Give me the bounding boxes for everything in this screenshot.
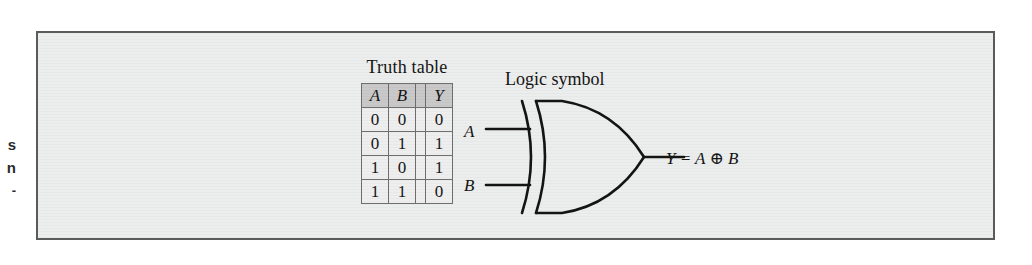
- margin-text-fragment: s: [2, 136, 16, 153]
- truth-table-spacer-cell: [416, 156, 426, 180]
- gate-upper-curve: [536, 101, 644, 157]
- truth-table-header-row: A B Y: [362, 84, 453, 108]
- xor-outer-arc: [522, 101, 531, 213]
- truth-table-spacer-cell: [416, 132, 426, 156]
- output-expression: Y = A ⊕ B: [666, 148, 738, 169]
- logic-symbol-caption: Logic symbol: [505, 69, 605, 90]
- cell-b: 0: [389, 156, 416, 180]
- truth-table-spacer-cell: [416, 84, 426, 108]
- truth-table-spacer-cell: [416, 108, 426, 132]
- cell-a: 0: [362, 132, 389, 156]
- cell-y: 1: [426, 132, 453, 156]
- cell-b: 0: [389, 108, 416, 132]
- table-row: 1 1 0: [362, 180, 453, 204]
- cell-b: 1: [389, 132, 416, 156]
- cell-a: 1: [362, 156, 389, 180]
- cell-a: 1: [362, 180, 389, 204]
- table-row: 0 0 0: [362, 108, 453, 132]
- margin-text-fragment: -: [2, 183, 16, 198]
- truth-table: A B Y 0 0 0 0 1 1: [361, 83, 453, 204]
- gate-lower-curve: [536, 157, 644, 213]
- margin-text-fragment: n: [2, 159, 16, 176]
- table-row: 0 1 1: [362, 132, 453, 156]
- table-row: 1 0 1: [362, 156, 453, 180]
- logic-symbol-block: Logic symbol A B Y = A ⊕ B: [458, 69, 928, 219]
- xor-gate-icon: [458, 95, 688, 219]
- truth-table-header-y: Y: [426, 84, 453, 108]
- cell-y: 0: [426, 180, 453, 204]
- gate-back-arc: [536, 101, 545, 213]
- truth-table-header-b: B: [389, 84, 416, 108]
- cell-a: 0: [362, 108, 389, 132]
- page-margin-fragments: s n -: [0, 0, 30, 265]
- truth-table-header-a: A: [362, 84, 389, 108]
- truth-table-spacer-cell: [416, 180, 426, 204]
- cell-y: 0: [426, 108, 453, 132]
- figure-panel: Truth table A B Y 0 0 0 0: [36, 31, 995, 240]
- cell-y: 1: [426, 156, 453, 180]
- cell-b: 1: [389, 180, 416, 204]
